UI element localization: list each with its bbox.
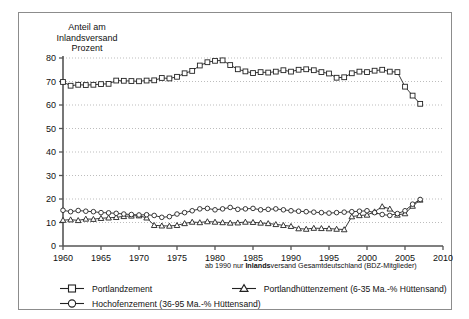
data-point [410,93,415,98]
legend-marker-square-icon [59,283,85,294]
y-tick-label-50: 50 [46,124,56,134]
legend-marker-triangle-icon [231,283,257,294]
data-point [213,208,218,213]
footnote-bold: Inlands [245,261,270,270]
data-point [182,210,187,215]
data-point [76,82,81,87]
data-point [274,207,279,212]
data-point [129,79,134,84]
data-point [167,76,172,81]
data-point [235,67,240,72]
data-point [83,83,88,88]
legend-label-portlandhuettenzement: Portlandhüttenzement (6-35 Ma.-% Hüttens… [264,284,447,294]
legend-item-portlandhuettenzement[interactable]: Portlandhüttenzement (6-35 Ma.-% Hüttens… [231,283,449,294]
data-point [418,197,423,202]
data-point [380,67,385,72]
data-point [205,206,210,211]
data-point [319,210,324,215]
data-point [281,208,286,213]
data-point [106,81,111,86]
data-point [197,63,202,68]
data-point [410,202,415,207]
data-point [236,207,241,212]
data-point [167,214,172,219]
x-tick-label-2010: 2010 [433,253,453,263]
data-point [159,76,164,81]
x-tick-label-1970: 1970 [129,253,149,263]
chart-figure-box: Anteil am Inlandsversand Prozent 0102030… [18,12,452,310]
data-point [327,211,332,216]
data-point [251,71,256,76]
data-point [342,210,347,215]
data-point [228,205,233,210]
legend-label-hochofenzement: Hochofenzement (36-95 Ma.-% Hüttensand) [92,299,261,309]
data-point [273,69,278,74]
data-point [388,213,393,218]
data-point [304,209,309,214]
data-point [395,211,400,216]
data-point [334,75,339,80]
data-point [205,60,210,65]
data-point [403,208,408,213]
data-point [372,68,377,73]
y-tick-label-0: 0 [51,241,56,251]
data-point [296,209,301,214]
data-point [175,212,180,217]
legend-item-portlandzement[interactable]: Portlandzement [59,283,231,294]
data-point [334,210,339,215]
data-point [198,207,203,212]
legend-row-2: Hochofenzement (36-95 Ma.-% Hüttensand) [59,296,449,311]
data-point [84,209,89,214]
data-point [281,68,286,73]
data-point [312,210,317,215]
data-point [311,68,316,73]
data-point [91,82,96,87]
data-point [220,58,225,63]
data-point [289,208,294,213]
data-point [350,209,355,214]
data-point [228,63,233,68]
legend-label-portlandzement: Portlandzement [92,284,152,294]
data-point [144,212,149,217]
data-point [137,213,142,218]
y-tick-label-80: 80 [46,53,56,63]
data-point [243,207,248,212]
data-point [175,74,180,79]
data-point [190,208,195,213]
data-point [296,67,301,72]
data-point [114,78,119,83]
data-point [319,70,324,75]
data-point [61,80,66,85]
x-tick-label-1965: 1965 [91,253,111,263]
data-point [160,215,165,220]
data-point [357,209,362,214]
data-point [122,212,127,217]
data-point [213,58,218,63]
legend-item-hochofenzement[interactable]: Hochofenzement (36-95 Ma.-% Hüttensand) [59,298,232,309]
data-point [266,70,271,75]
data-point [114,211,119,216]
data-point [152,213,157,218]
y-tick-label-70: 70 [46,77,56,87]
data-point [289,69,294,74]
x-tick-label-1960: 1960 [53,253,73,263]
data-point [99,82,104,87]
data-point [327,71,332,76]
data-point [243,69,248,74]
data-point [379,204,385,209]
data-point [144,78,149,83]
data-point [357,69,362,74]
data-point [403,84,408,89]
data-point [91,209,96,214]
legend-marker-circle-icon [59,298,85,309]
data-point [129,212,134,217]
series-0 [61,58,423,106]
data-point [106,211,111,216]
chart-legend: Portlandzement Portlandhüttenzement (6-3… [59,281,449,311]
data-point [99,210,104,215]
data-point [380,212,385,217]
data-point [418,101,423,106]
chart-footnote: ab 1990 nur Inlandsversand Gesamtdeutsch… [205,261,417,270]
data-point [220,207,225,212]
data-point [304,67,309,72]
